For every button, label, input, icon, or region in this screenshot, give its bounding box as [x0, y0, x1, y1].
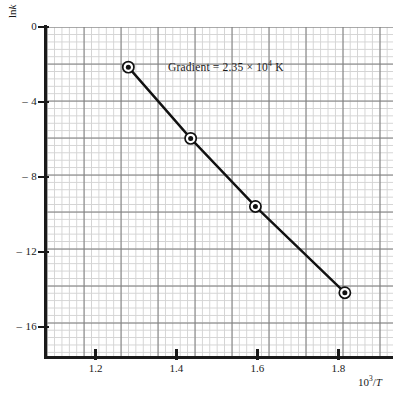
data-point-dot	[253, 204, 258, 209]
arrhenius-plot-figure: 0– 4– 8– 12– 16 1.21.41.61.8 lnk 103/T G…	[0, 0, 416, 407]
data-point-dot	[126, 65, 131, 70]
data-point-dot	[188, 136, 193, 141]
series-line	[128, 67, 345, 293]
data-point-dot	[342, 290, 347, 295]
series-markers	[123, 62, 351, 299]
data-series-layer	[0, 0, 416, 407]
